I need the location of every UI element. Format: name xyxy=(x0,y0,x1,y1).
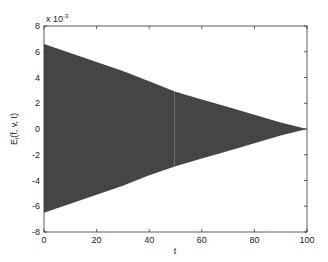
y-tick-label: -8 xyxy=(32,227,40,237)
y-tick-label: 4 xyxy=(35,73,40,83)
envelope-fill xyxy=(44,44,307,213)
x-tick-label: 100 xyxy=(299,235,314,245)
x-tick-labels: 020406080100 xyxy=(41,235,314,245)
envelope-area xyxy=(44,44,307,213)
chart: 020406080100 86420-2-4-6-8 t El(f, v, t)… xyxy=(0,0,328,262)
y-tick-label: -4 xyxy=(32,176,40,186)
y-axis-label: El(f, v, t) xyxy=(9,113,20,145)
y-tick-label: 8 xyxy=(35,21,40,31)
x-tick-label: 20 xyxy=(92,235,102,245)
y-tick-label: 0 xyxy=(35,124,40,134)
x-tick-label: 0 xyxy=(41,235,46,245)
y-tick-label: 2 xyxy=(35,98,40,108)
y-tick-label: -6 xyxy=(32,201,40,211)
y-exponent-label: x 10-3 xyxy=(46,13,69,24)
y-tick-label: 6 xyxy=(35,47,40,57)
y-tick-label: -2 xyxy=(32,150,40,160)
x-axis-label: t xyxy=(174,246,177,256)
x-tick-label: 40 xyxy=(144,235,154,245)
x-tick-label: 80 xyxy=(249,235,259,245)
x-tick-label: 60 xyxy=(197,235,207,245)
y-tick-labels: 86420-2-4-6-8 xyxy=(32,21,40,237)
